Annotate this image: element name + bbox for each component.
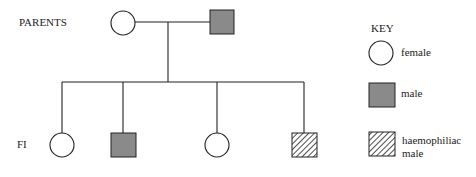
key-male-label: male [401, 87, 422, 100]
parent-male-square [210, 10, 234, 34]
key-female-label: female [401, 46, 431, 59]
parent-female-circle [111, 11, 135, 35]
key-haemophiliac-label-1: haemophiliac [402, 134, 461, 147]
f1-female-circle-1 [50, 133, 74, 157]
parents-label: PARENTS [19, 16, 67, 29]
f1-label: FI [17, 138, 27, 151]
key-haemophiliac-square [369, 132, 395, 156]
key-title: KEY [371, 22, 394, 35]
key-female-circle [369, 41, 393, 65]
f1-female-circle-2 [205, 133, 229, 157]
f1-haemophiliac-male-square [292, 133, 317, 157]
f1-male-square [111, 133, 136, 157]
key-male-square [369, 83, 395, 107]
key-haemophiliac-label-2: male [402, 147, 423, 160]
